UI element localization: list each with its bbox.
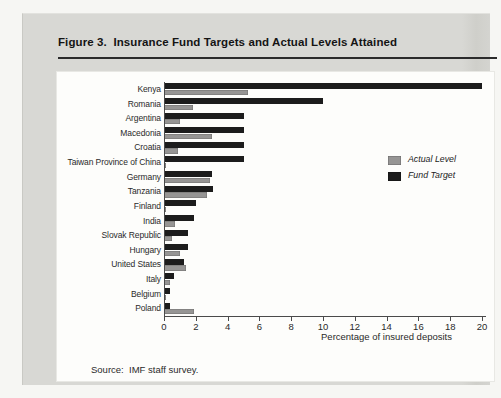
fund-target-bar	[164, 259, 184, 265]
fund-target-bar	[164, 127, 244, 133]
category-label: Tanzania	[128, 184, 161, 199]
category-label: Poland	[135, 301, 161, 316]
source-note: Source: IMF staff survey.	[91, 364, 198, 375]
fund-target-bar	[164, 156, 244, 162]
fund-target-bar	[164, 230, 188, 236]
fund-target-bar	[164, 273, 174, 279]
actual-level-bar	[164, 192, 207, 197]
fund-target-bar	[164, 200, 196, 206]
fund-target-bar	[164, 113, 244, 119]
x-axis-caption: Percentage of insured deposits	[321, 331, 452, 342]
category-label: India	[143, 214, 161, 229]
actual-level-bar	[164, 251, 180, 256]
legend-label: Actual Level	[408, 154, 456, 164]
fund-target-bar	[164, 83, 482, 89]
fund-target-bar	[164, 244, 188, 250]
fund-target-swatch	[388, 172, 401, 181]
category-label: Taiwan Province of China	[67, 155, 161, 170]
category-label: Italy	[146, 272, 161, 287]
scanned-report-page: Figure 3. Insurance Fund Targets and Act…	[0, 0, 501, 398]
x-axis-line	[164, 316, 486, 317]
category-label: Germany	[127, 170, 161, 185]
category-label: Kenya	[137, 82, 161, 97]
category-label: United States	[111, 257, 161, 272]
actual-level-bar	[164, 134, 212, 139]
category-label: Macedonia	[120, 126, 161, 141]
figure-panel: Figure 3. Insurance Fund Targets and Act…	[22, 13, 490, 385]
legend-label: Fund Target	[408, 170, 455, 180]
x-axis-tick-label: 0	[153, 321, 175, 332]
fund-target-bar	[164, 171, 212, 177]
category-label: Finland	[134, 199, 161, 214]
category-label: Romania	[128, 97, 161, 112]
actual-level-bar	[164, 221, 175, 226]
y-axis-line	[164, 82, 165, 317]
category-label: Belgium	[131, 287, 161, 302]
actual-level-bar	[164, 148, 178, 153]
fund-target-bar	[164, 98, 323, 104]
category-label: Croatia	[134, 140, 161, 155]
x-axis-tick-label: 2	[185, 321, 207, 332]
actual-level-bar	[164, 178, 210, 183]
category-label: Argentina	[126, 111, 162, 126]
fund-target-bar	[164, 186, 213, 192]
actual-level-bar	[164, 309, 194, 314]
fund-target-bar	[164, 142, 244, 148]
actual-level-swatch	[388, 156, 401, 165]
actual-level-bar	[164, 105, 193, 110]
actual-level-bar	[164, 119, 180, 124]
actual-level-bar	[164, 265, 186, 270]
x-axis-tick-label: 6	[248, 321, 270, 332]
x-axis-tick-label: 20	[471, 321, 493, 332]
x-axis-tick-label: 4	[217, 321, 239, 332]
category-label: Slovak Republic	[102, 228, 161, 243]
fund-target-bar	[164, 215, 194, 221]
actual-level-bar	[164, 90, 248, 95]
x-axis-tick-label: 8	[280, 321, 302, 332]
category-label: Hungary	[130, 243, 161, 258]
actual-level-bar	[164, 236, 172, 241]
